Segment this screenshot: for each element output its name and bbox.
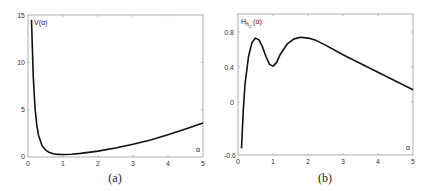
plot-a-xticks: [63, 15, 168, 157]
plot-b-ytick-0: 0: [230, 99, 234, 106]
plot-b-ytick-04: 0.4: [224, 64, 234, 71]
plot-a-xtick-0: 0: [26, 160, 30, 167]
plot-a-ytick-5: 5: [21, 106, 25, 113]
plot-a-xtick-1: 1: [61, 160, 65, 167]
plot-a-yticks: [28, 62, 203, 109]
plot-b-yticks: [238, 32, 413, 102]
plot-a-xtick-3: 3: [131, 160, 135, 167]
figure: 0 1 2 3 4 5 0 5 10 15 V(α) α (a) 0 1 2: [0, 0, 434, 191]
plot-b-xlabel: α: [406, 144, 410, 151]
plot-b-ylabel-subsub: 2: [249, 24, 252, 29]
plot-b-curve: [242, 37, 414, 148]
panel-a: 0 1 2 3 4 5 0 5 10 15 V(α) α (a): [17, 12, 205, 185]
plot-a-frame: [28, 15, 203, 157]
plot-a-ytick-0: 0: [21, 153, 25, 160]
panel-b: 0 1 2 3 4 5 -0.6 0 0.4 0.8 Hh2(α) α (b): [224, 14, 415, 185]
plot-a-curve: [32, 20, 204, 155]
plot-b-xtick-2: 2: [306, 158, 310, 165]
plot-a-xlabel: α: [196, 146, 200, 153]
plot-a-ylabel: V(α): [34, 19, 47, 27]
plot-b-ylabel-arg: (α): [253, 18, 262, 26]
plot-a-ytick-15: 15: [17, 12, 25, 19]
plot-b-xtick-1: 1: [271, 158, 275, 165]
plot-b-frame: [238, 14, 413, 155]
plot-a-ytick-10: 10: [17, 59, 25, 66]
plot-a-xtick-4: 4: [166, 160, 170, 167]
plot-a-caption: (a): [108, 171, 121, 185]
plot-b-ytick-08: 0.8: [224, 29, 234, 36]
plot-a-xtick-2: 2: [96, 160, 100, 167]
plot-b-xticks: [273, 14, 378, 155]
plot-b-xtick-0: 0: [236, 158, 240, 165]
plot-a-xtick-5: 5: [201, 160, 205, 167]
plot-b-xtick-4: 4: [376, 158, 380, 165]
plot-b-ylabel: Hh2(α): [241, 18, 262, 29]
plot-b-ytick-neg06: -0.6: [224, 152, 236, 159]
plot-b-caption: (b): [318, 171, 332, 185]
plot-b-xtick-3: 3: [341, 158, 345, 165]
plot-b-xtick-5: 5: [411, 158, 415, 165]
